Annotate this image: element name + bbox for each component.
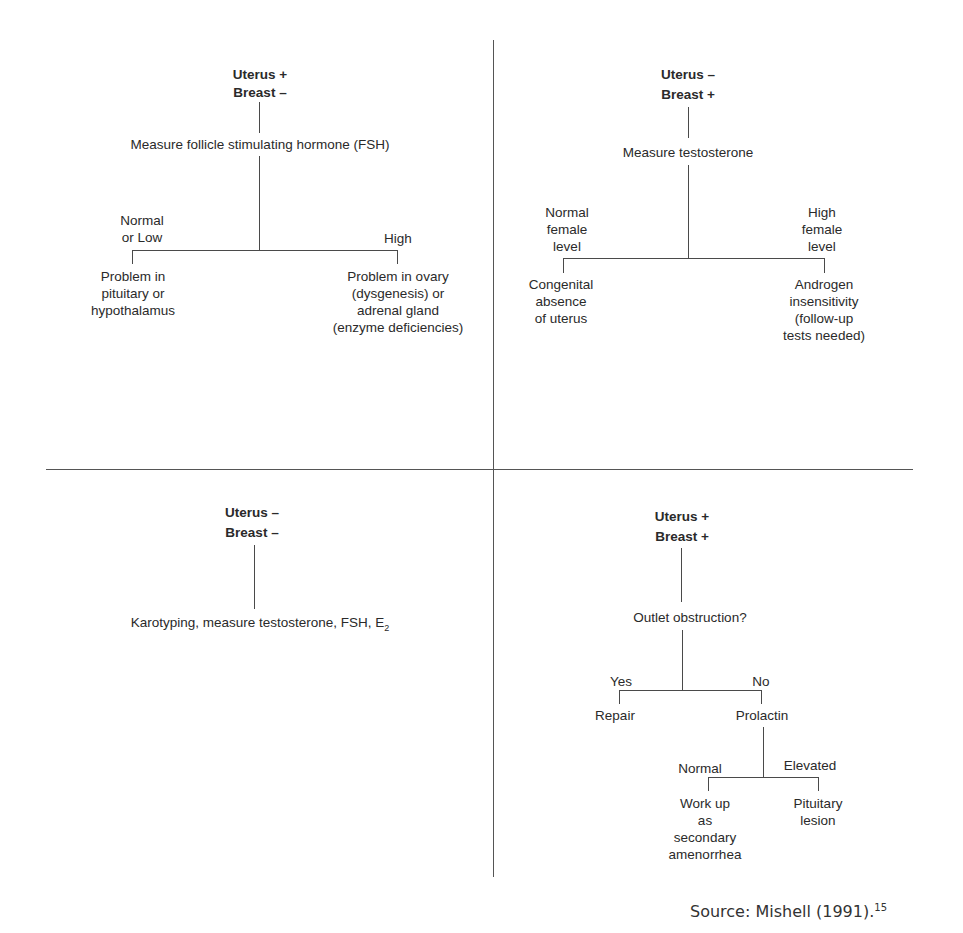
step-measure-testosterone: Measure testosterone bbox=[623, 144, 754, 161]
connector bbox=[132, 250, 133, 264]
connector bbox=[397, 250, 398, 264]
connector bbox=[688, 165, 689, 258]
header-uterus: Uterus – bbox=[661, 66, 715, 83]
outcome-repair: Repair bbox=[595, 707, 635, 724]
outcome-pituitary-hypothalamus: Problem in pituitary or hypothalamus bbox=[91, 268, 175, 319]
horizontal-divider bbox=[46, 469, 913, 470]
header-uterus: Uterus + bbox=[233, 66, 287, 83]
sub-branch-bracket bbox=[708, 777, 819, 778]
connector bbox=[824, 258, 825, 273]
header-breast: Breast – bbox=[225, 524, 278, 541]
branch-bracket bbox=[619, 690, 762, 691]
connector bbox=[563, 258, 564, 273]
sub-branch-label-normal: Normal bbox=[678, 760, 722, 777]
vertical-divider bbox=[493, 40, 494, 877]
footnote-marker: 15 bbox=[874, 902, 887, 913]
outcome-ovary-adrenal: Problem in ovary (dysgenesis) or adrenal… bbox=[333, 268, 464, 336]
branch-label-high: High bbox=[384, 230, 412, 247]
header-breast: Breast – bbox=[233, 84, 286, 101]
connector bbox=[619, 690, 620, 704]
connector bbox=[761, 690, 762, 704]
outcome-androgen-insensitivity: Androgen insensitivity (follow-up tests … bbox=[783, 276, 865, 344]
header-uterus: Uterus – bbox=[225, 504, 279, 521]
header-breast: Breast + bbox=[655, 528, 709, 545]
connector bbox=[818, 777, 819, 791]
branch-label-high-female: High female level bbox=[802, 204, 843, 255]
branch-label-normal-female: Normal female level bbox=[545, 204, 589, 255]
connector bbox=[259, 156, 260, 250]
branch-label-yes: Yes bbox=[610, 673, 632, 690]
branch-bracket bbox=[563, 258, 825, 259]
header-uterus: Uterus + bbox=[655, 508, 709, 525]
branch-bracket bbox=[132, 250, 398, 251]
connector bbox=[682, 630, 683, 690]
outcome-work-up-secondary-amenorrhea: Work up as secondary amenorrhea bbox=[669, 795, 742, 863]
step-outlet-obstruction: Outlet obstruction? bbox=[633, 609, 746, 626]
source-caption: Source: Mishell (1991).15 bbox=[690, 902, 887, 921]
sub-branch-label-elevated: Elevated bbox=[784, 757, 837, 774]
outcome-prolactin: Prolactin bbox=[736, 707, 789, 724]
branch-label-normal-low: Normal or Low bbox=[120, 212, 164, 246]
outcome-pituitary-lesion: Pituitary lesion bbox=[794, 795, 843, 829]
step-measure-fsh: Measure follicle stimulating hormone (FS… bbox=[131, 136, 390, 153]
branch-label-no: No bbox=[752, 673, 769, 690]
connector bbox=[259, 102, 260, 133]
connector bbox=[688, 107, 689, 138]
header-breast: Breast + bbox=[661, 86, 715, 103]
connector bbox=[763, 727, 764, 777]
connector bbox=[254, 545, 255, 609]
connector bbox=[681, 548, 682, 602]
step-karotyping: Karotyping, measure testosterone, FSH, E… bbox=[131, 614, 390, 637]
connector bbox=[708, 777, 709, 791]
outcome-congenital-absence: Congenital absence of uterus bbox=[529, 276, 594, 327]
